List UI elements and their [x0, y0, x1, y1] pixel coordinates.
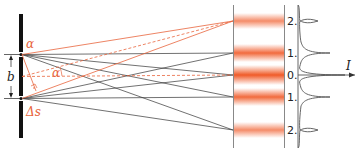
order-label-1-bottom: 1. — [287, 91, 298, 104]
order-label-1-top: 1. — [287, 47, 298, 60]
alpha-top-label: α — [26, 37, 34, 51]
alpha-mid-label: α — [52, 66, 60, 80]
fringe-1-top — [234, 44, 284, 62]
fringe-2-top — [234, 13, 284, 29]
right-angle-dot — [33, 87, 35, 89]
intensity-arrow-icon — [349, 73, 355, 78]
path-difference-label: Δs — [25, 105, 41, 119]
double-slit-diagram: b α α Δs 2. 1. 0. 1. 2. — [0, 0, 358, 148]
fringe-1-bottom — [234, 88, 284, 106]
fringe-2-bottom — [234, 122, 284, 138]
order-label-0: 0. — [287, 69, 298, 82]
order-label-2-top: 2. — [287, 15, 298, 28]
order-label-2-bottom: 2. — [287, 124, 298, 137]
screen — [234, 5, 285, 148]
fringe-0 — [234, 65, 284, 85]
intensity-plot — [298, 5, 355, 148]
light-rays — [22, 53, 233, 130]
slit-distance-label: b — [7, 70, 15, 84]
intensity-label: I — [345, 59, 351, 73]
